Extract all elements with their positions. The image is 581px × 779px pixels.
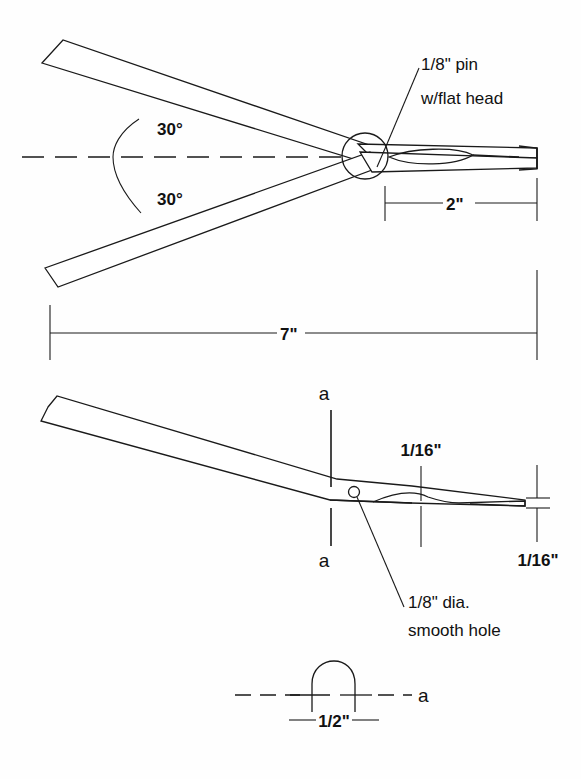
section-view-label: a (418, 685, 429, 706)
angle-label-upper: 30° (157, 120, 183, 139)
lower-handle (45, 152, 380, 287)
section-view: a 1/2" (235, 661, 429, 731)
dim-hump-label: 1/16" (400, 441, 441, 460)
plan-view: 1/8" pin w/flat head 30° 30° 2" 7" (22, 40, 537, 360)
angle-arc-lower (113, 157, 141, 213)
dim-thickness-label: 1/16" (517, 551, 558, 570)
hole-note-leader (357, 497, 404, 607)
dim-width-label: 1/2" (318, 712, 350, 731)
section-mark-bottom: a (319, 550, 330, 571)
drawing-page: 1/8" pin w/flat head 30° 30° 2" 7" (0, 0, 581, 779)
side-profile (41, 396, 525, 506)
section-d-shape (312, 661, 355, 712)
angle-arc-upper (113, 119, 139, 157)
pin-note-line2: w/flat head (420, 89, 503, 108)
side-view: a a 1/16" 1/16" 1/8" dia. smooth hole (41, 383, 559, 640)
technical-drawing-canvas: 1/8" pin w/flat head 30° 30° 2" 7" (0, 0, 581, 779)
upper-handle (42, 40, 372, 161)
pin-note-line1: 1/8" pin (421, 55, 478, 74)
pin-note-leader (387, 68, 419, 144)
dim-overall-label: 7" (280, 325, 298, 344)
hole-note-line2: smooth hole (408, 621, 501, 640)
hole-note-line1: 1/8" dia. (408, 593, 470, 612)
section-mark-top: a (319, 383, 330, 404)
dim-jaw-label: 2" (446, 195, 464, 214)
angle-label-lower: 30° (157, 190, 183, 209)
